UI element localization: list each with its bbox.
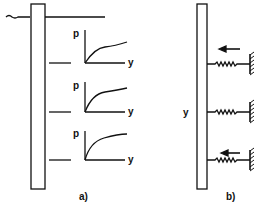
p-axis-label-2: p xyxy=(73,80,79,91)
pile-p-y-diagram: p y p y p y a) xyxy=(0,0,259,205)
pile-b xyxy=(197,4,207,189)
pile-a xyxy=(31,4,45,189)
panel-a-label: a) xyxy=(79,191,88,202)
ground-line xyxy=(6,16,105,19)
spring-2 xyxy=(207,100,254,123)
panel-b-label: b) xyxy=(226,191,235,202)
arrow-left-icon xyxy=(221,150,240,156)
spring-1 xyxy=(207,52,254,75)
p-y-curve-3 xyxy=(49,131,127,160)
p-y-curve-2 xyxy=(49,82,127,112)
p-axis-label-1: p xyxy=(73,28,79,39)
spring-3 xyxy=(207,148,254,171)
y-axis-label-1: y xyxy=(128,57,134,68)
panel-b xyxy=(197,4,254,189)
y-axis-label-b: y xyxy=(183,107,189,118)
arrow-left-icon xyxy=(219,46,240,52)
p-axis-label-3: p xyxy=(73,128,79,139)
p-y-curve-1 xyxy=(49,30,127,63)
y-axis-label-3: y xyxy=(128,154,134,165)
y-axis-label-2: y xyxy=(128,106,134,117)
panel-a xyxy=(6,4,127,189)
